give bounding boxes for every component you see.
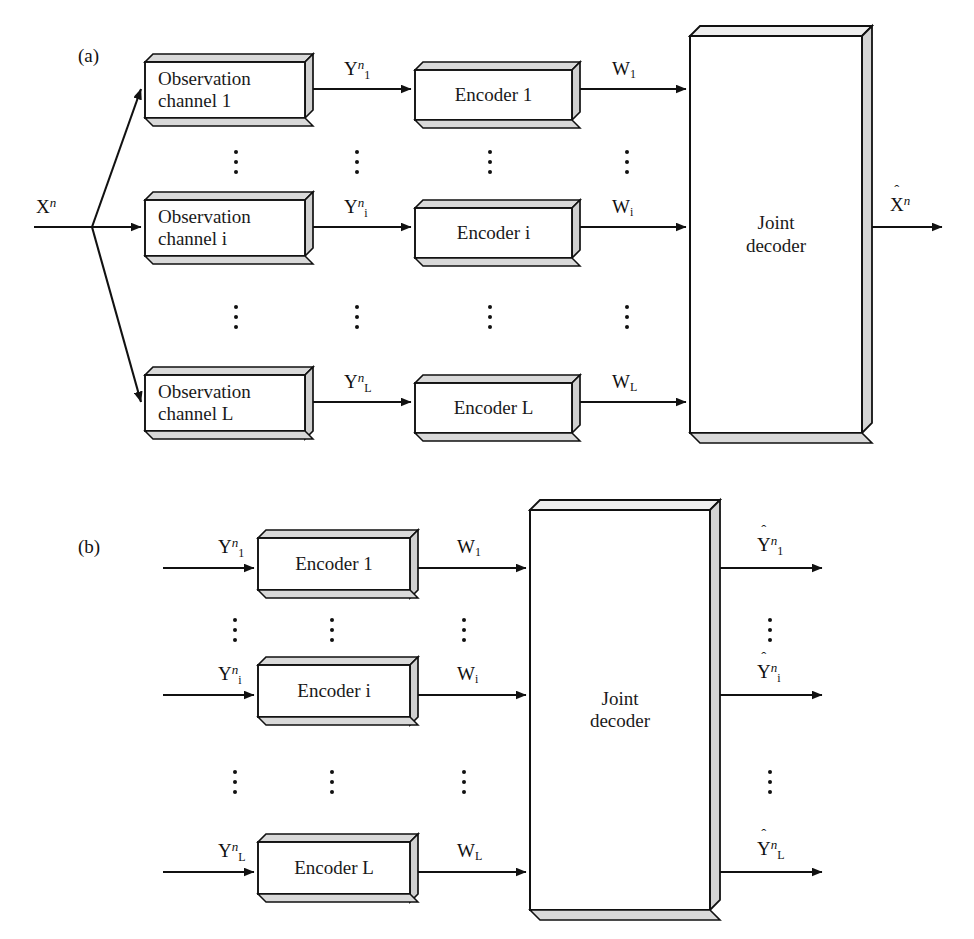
- xhat-sup: n: [904, 193, 911, 208]
- yLb-base: Y: [218, 840, 232, 861]
- ellipsis-wb-upper: [462, 618, 467, 642]
- output-label-yLhat: ˆYnL: [757, 838, 785, 862]
- encoder-1-label-a: Encoder 1: [415, 70, 572, 120]
- obsi-line2: channel i: [158, 228, 227, 250]
- ellipsis-yhat-upper: [768, 618, 773, 642]
- obs1-line1: Observation: [158, 68, 251, 90]
- wia-sub: i: [630, 205, 633, 219]
- wLa-sub: L: [630, 380, 637, 394]
- encLb-line1: Encoder L: [294, 857, 374, 879]
- enc1a-line1: Encoder 1: [455, 84, 533, 106]
- w1b-sub: 1: [475, 545, 481, 559]
- ellipsis-yb-upper: [233, 618, 238, 642]
- ellipsis-yb-lower: [233, 770, 238, 794]
- ellipsis-w-upper: [625, 150, 630, 174]
- signal-label-yi-a: Yni: [344, 196, 368, 220]
- obsi-line1: Observation: [158, 206, 251, 228]
- joint-decoder-label-a: Joint decoder: [690, 36, 862, 433]
- yLhat-wrap: ˆY: [757, 838, 771, 859]
- yihat-wrap: ˆY: [757, 661, 771, 682]
- output-label-yihat: ˆYni: [757, 661, 781, 685]
- yihat-sub: i: [777, 671, 780, 685]
- y1b-base: Y: [218, 536, 232, 557]
- input-label-x-base: X: [36, 196, 50, 217]
- wLb-base: W: [457, 840, 475, 861]
- signal-label-y1-a: Yn1: [344, 58, 370, 82]
- xhat-base-wrap: ˆX: [890, 194, 904, 215]
- ellipsis-obs-lower: [234, 305, 239, 329]
- y1hat-sub: 1: [777, 544, 783, 558]
- observation-channel-1-label: Observation channel 1: [158, 62, 304, 118]
- ellipsis-encb-lower: [330, 770, 335, 794]
- encoder-i-label-b: Encoder i: [258, 665, 410, 717]
- encia-line1: Encoder i: [457, 222, 530, 244]
- decb-line1: Joint: [602, 688, 639, 710]
- obsL-line1: Observation: [158, 381, 251, 403]
- encoder-L-label-b: Encoder L: [258, 842, 410, 894]
- ellipsis-y-upper: [355, 150, 360, 174]
- obs1-line2: channel 1: [158, 90, 231, 112]
- wLa-base: W: [612, 371, 630, 392]
- yia-base: Y: [344, 196, 358, 217]
- input-label-x-sup: n: [50, 195, 57, 210]
- y1hat-wrap: ˆY: [757, 534, 771, 555]
- signal-label-yL-a: YnL: [344, 371, 372, 395]
- output-label-y1hat: ˆYn1: [757, 534, 783, 558]
- ellipsis-obs-upper: [234, 150, 239, 174]
- ellipsis-w-lower: [625, 305, 630, 329]
- signal-label-yi-b: Yni: [218, 663, 242, 687]
- signal-label-wi-a: Wi: [612, 196, 633, 220]
- wia-base: W: [612, 196, 630, 217]
- signal-label-wi-b: Wi: [457, 663, 478, 687]
- signal-label-w1-a: W1: [612, 58, 636, 82]
- observation-channel-i-label: Observation channel i: [158, 200, 304, 256]
- yib-base: Y: [218, 663, 232, 684]
- yib-sub: i: [238, 673, 241, 687]
- wib-sub: i: [475, 672, 478, 686]
- observation-channel-L-label: Observation channel L: [158, 375, 304, 431]
- signal-label-wL-a: WL: [612, 371, 637, 395]
- panel-a-tag: (a): [78, 45, 99, 66]
- obsL-line2: channel L: [158, 403, 233, 425]
- wib-base: W: [457, 663, 475, 684]
- ellipsis-wb-lower: [462, 770, 467, 794]
- ellipsis-enc-lower: [488, 305, 493, 329]
- encib-line1: Encoder i: [297, 680, 370, 702]
- yLhat-sub: L: [777, 848, 784, 862]
- xhat-accent: ˆ: [894, 183, 899, 198]
- y1a-sub: 1: [364, 68, 370, 82]
- yLb-sub: L: [238, 850, 245, 864]
- signal-label-y1-b: Yn1: [218, 536, 244, 560]
- yLa-base: Y: [344, 371, 358, 392]
- decb-line2: decoder: [590, 710, 650, 732]
- signal-label-wL-b: WL: [457, 840, 482, 864]
- yLhat-accent: ˆ: [761, 827, 766, 842]
- output-label-xhat: ˆXn: [890, 194, 910, 216]
- encoder-1-label-b: Encoder 1: [258, 538, 410, 590]
- encoder-i-label-a: Encoder i: [415, 208, 572, 258]
- encoder-L-label-a: Encoder L: [415, 383, 572, 433]
- input-label-x: Xn: [36, 196, 56, 218]
- ellipsis-enc-upper: [488, 150, 493, 174]
- yihat-accent: ˆ: [761, 650, 766, 665]
- enc1b-line1: Encoder 1: [295, 553, 373, 575]
- y1a-base: Y: [344, 58, 358, 79]
- yLa-sub: L: [364, 381, 371, 395]
- w1a-sub: 1: [630, 67, 636, 81]
- signal-label-yL-b: YnL: [218, 840, 246, 864]
- w1b-base: W: [457, 536, 475, 557]
- ellipsis-yhat-lower: [768, 770, 773, 794]
- deca-line2: decoder: [746, 235, 806, 257]
- panel-b-tag: (b): [78, 536, 100, 557]
- wLb-sub: L: [475, 849, 482, 863]
- figure-canvas: (a) (b) Xn Observation channel 1 Observa…: [0, 0, 974, 939]
- encLa-line1: Encoder L: [454, 397, 534, 419]
- signal-label-w1-b: W1: [457, 536, 481, 560]
- deca-line1: Joint: [758, 212, 795, 234]
- ellipsis-y-lower: [355, 305, 360, 329]
- ellipsis-encb-upper: [330, 618, 335, 642]
- yia-sub: i: [364, 206, 367, 220]
- w1a-base: W: [612, 58, 630, 79]
- y1hat-accent: ˆ: [761, 523, 766, 538]
- joint-decoder-label-b: Joint decoder: [530, 510, 710, 910]
